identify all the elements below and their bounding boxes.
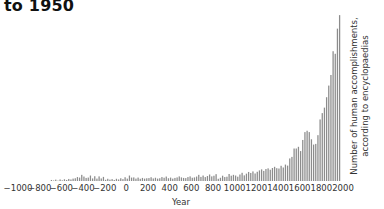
bar [291, 157, 292, 181]
bar [85, 178, 86, 181]
bar [235, 176, 236, 181]
bar [270, 170, 271, 181]
x-tick-label: 1800 [310, 183, 332, 193]
bar [142, 178, 143, 181]
bar [213, 176, 214, 181]
bar [306, 131, 307, 181]
bar [293, 149, 294, 181]
bar [153, 178, 154, 181]
bar [226, 177, 227, 181]
bar [59, 179, 60, 181]
bar [272, 168, 273, 181]
bar [185, 178, 186, 181]
bar [220, 178, 221, 181]
bar [231, 176, 232, 181]
y-axis-label-line-1: Number of human accomplishments, [349, 6, 360, 186]
bar [150, 177, 151, 181]
bar-chart: to 1950 −1000−800−600−400−20002004006008… [0, 0, 384, 209]
bar [302, 140, 303, 181]
bar [77, 177, 78, 181]
x-tick-label: 1400 [267, 183, 289, 193]
bar [176, 177, 177, 181]
bar [241, 173, 242, 181]
bar [170, 178, 171, 181]
bar [215, 174, 216, 181]
bar [335, 54, 336, 181]
bar [183, 178, 184, 181]
bar [265, 169, 266, 181]
bar [252, 171, 253, 181]
bar [114, 180, 115, 181]
bar [317, 135, 318, 181]
y-axis-label-line-2: according to encyclopaedias [360, 6, 371, 186]
bar [228, 174, 229, 181]
bar [105, 180, 106, 181]
bar [267, 168, 268, 181]
bar [289, 158, 290, 181]
bar [68, 179, 69, 181]
bar [157, 179, 158, 181]
bar [131, 178, 132, 181]
bar [192, 178, 193, 181]
x-tick-label: −200 [93, 183, 116, 193]
bar [168, 178, 169, 181]
bar [81, 175, 82, 181]
bar [218, 179, 219, 181]
bar [296, 149, 297, 181]
bar [332, 51, 333, 181]
bar [88, 178, 89, 181]
bar [300, 151, 301, 181]
bar [211, 176, 212, 181]
bar [172, 179, 173, 181]
x-tick-label: 400 [162, 183, 178, 193]
bar [304, 132, 305, 181]
bar [278, 169, 279, 181]
x-tick-label: −800 [28, 183, 51, 193]
x-tick-label: 1600 [289, 183, 311, 193]
bar [250, 173, 251, 181]
bar [246, 174, 247, 181]
x-axis-label: Year [172, 197, 190, 207]
bar [66, 180, 67, 181]
bar [122, 179, 123, 181]
bar [224, 177, 225, 181]
bar [174, 178, 175, 181]
bar [285, 165, 286, 181]
x-tick-label: 600 [183, 183, 199, 193]
bar [146, 178, 147, 181]
bar [254, 173, 255, 181]
bar [181, 177, 182, 181]
bar [259, 170, 260, 181]
bar [283, 167, 284, 181]
bar [124, 177, 125, 181]
bar [202, 176, 203, 181]
x-tick-label: 1200 [245, 183, 267, 193]
bar [319, 119, 320, 181]
bar [79, 178, 80, 181]
bar [200, 177, 201, 181]
bar [109, 180, 110, 181]
bar [137, 178, 138, 181]
bar [144, 179, 145, 181]
x-tick-label: 0 [124, 183, 129, 193]
x-tick-label: −400 [71, 183, 94, 193]
bar [129, 176, 130, 181]
bar [135, 179, 136, 181]
bar [118, 179, 119, 181]
bar [148, 178, 149, 181]
bar [166, 177, 167, 181]
bar [311, 139, 312, 181]
bar [274, 167, 275, 181]
x-tick-label: 1000 [224, 183, 246, 193]
bar [120, 178, 121, 181]
bar [64, 179, 65, 181]
bar [116, 179, 117, 181]
bar [207, 176, 208, 181]
bar [261, 169, 262, 181]
bar [155, 178, 156, 181]
bar [276, 168, 277, 181]
bar [189, 176, 190, 181]
bar [239, 175, 240, 182]
bar [133, 177, 134, 181]
bar [237, 177, 238, 181]
